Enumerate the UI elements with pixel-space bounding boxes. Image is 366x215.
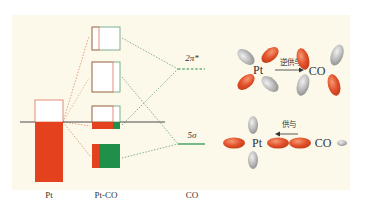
donation-metal-label: Pt	[252, 136, 263, 150]
pt-co-level-4	[92, 144, 120, 168]
pt-co-level-3	[92, 106, 120, 129]
co-column-label: CO	[186, 190, 199, 200]
pt-co-level-1	[92, 27, 120, 50]
pt-right-lobe-icon	[267, 138, 289, 149]
co-sigma-lobe-icon	[289, 138, 311, 149]
sigma-label: 5σ	[188, 130, 198, 140]
pt-left-lobe-icon	[223, 138, 245, 149]
pt-lower-lobe-icon	[248, 151, 258, 169]
pt-filled-states	[35, 122, 63, 182]
pt-co-orbital-diagram: 2π* 5σ Pt Pt-CO CO Pt 逆供与 CO	[0, 0, 366, 215]
back-donation-ligand-label: CO	[309, 64, 326, 78]
donation-ligand-label: CO	[315, 136, 332, 150]
co-back-lobe-icon	[337, 140, 347, 146]
figure-caption	[60, 206, 300, 215]
donation-arrow-label: 供与	[282, 119, 296, 129]
pt-column-label: Pt	[45, 190, 53, 200]
pt-empty-states	[35, 100, 63, 122]
pt-co-level-2	[92, 62, 120, 92]
pi-star-label: 2π*	[185, 53, 199, 63]
back-donation-metal-label: Pt	[253, 63, 264, 77]
pt-dos-column	[35, 100, 63, 182]
pt-co-column-label: Pt-CO	[94, 190, 118, 200]
pt-upper-lobe-icon	[248, 116, 258, 134]
